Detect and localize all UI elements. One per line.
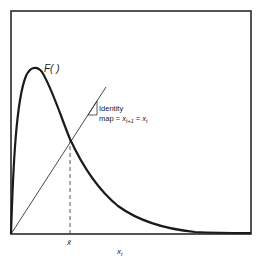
identity-label-line1: Identity bbox=[99, 104, 123, 113]
fixed-point-label: x̄ bbox=[66, 238, 72, 247]
diagram-canvas: F( ) Identity map = xt+1 = xt x̄ xt bbox=[0, 0, 259, 260]
slope-triangle-icon bbox=[88, 101, 97, 115]
f-curve bbox=[11, 68, 251, 234]
identity-label-line2: map = xt+1 = xt bbox=[99, 114, 148, 124]
x-axis-label: xt bbox=[116, 247, 123, 257]
curve-label: F( ) bbox=[44, 63, 60, 74]
